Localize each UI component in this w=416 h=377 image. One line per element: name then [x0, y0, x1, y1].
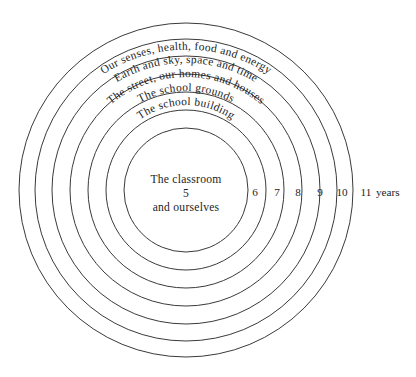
concentric-circles-diagram: Our senses, health, food and energy Eart…	[0, 0, 416, 377]
age-number-11: 11	[361, 186, 372, 198]
age-number-10: 10	[336, 186, 348, 198]
age-number-6: 6	[252, 186, 258, 198]
age-number-7: 7	[274, 186, 280, 198]
center-label-line-2-age: 5	[183, 187, 189, 200]
center-label-group: The classroom 5 and ourselves	[150, 173, 221, 214]
age-number-8: 8	[295, 186, 301, 198]
center-label-line-1: The classroom	[150, 173, 221, 186]
center-label-line-3: and ourselves	[153, 201, 220, 214]
diagram-canvas: Our senses, health, food and energy Eart…	[0, 0, 416, 377]
age-number-9: 9	[317, 186, 323, 198]
age-axis-unit-label: years	[376, 186, 400, 198]
age-axis-group: 6 7 8 9 10 11 years	[252, 186, 399, 198]
